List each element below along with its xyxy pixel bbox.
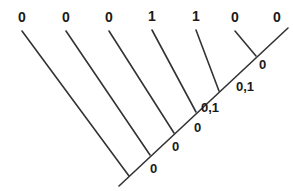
node-label-2: 0,1 [236, 80, 254, 93]
node-label-6: 0 [150, 162, 157, 175]
cladogram-figure: 0 0 0 1 1 0 0 0 0,1 0,1 0 0 0 [0, 0, 293, 191]
tip-label-7: 0 [273, 10, 281, 24]
tip-branch-6 [235, 31, 256, 56]
tip-branch-3 [109, 31, 174, 133]
node-label-3: 0,1 [201, 101, 219, 114]
tree-branches-svg [0, 0, 293, 191]
tip-branch-5 [196, 30, 219, 91]
tip-branch-4 [152, 30, 196, 112]
tip-branch-2 [66, 31, 150, 155]
tip-label-2: 0 [62, 10, 70, 24]
tip-label-3: 0 [105, 10, 113, 24]
tip-label-5: 1 [192, 9, 200, 23]
node-label-4: 0 [194, 121, 201, 134]
tip-branch-1 [22, 31, 129, 176]
node-label-1: 0 [259, 58, 266, 71]
tip-label-4: 1 [148, 9, 156, 23]
tip-label-1: 0 [18, 10, 26, 24]
tip-label-6: 0 [231, 10, 239, 24]
node-label-5: 0 [172, 140, 179, 153]
